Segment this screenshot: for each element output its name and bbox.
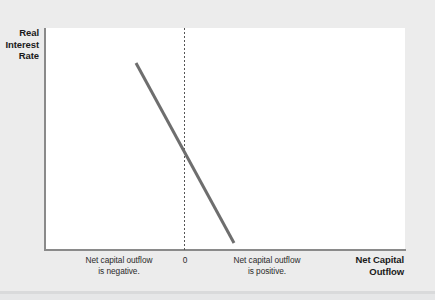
- x-axis-line: [44, 249, 406, 251]
- negative-region-label: Net capital outflow is negative.: [56, 255, 182, 276]
- positive-region-label-line2: is positive.: [204, 266, 330, 277]
- y-axis-title: Real Interest Rate: [0, 27, 39, 62]
- y-axis-line: [44, 28, 46, 251]
- negative-region-label-line2: is negative.: [56, 266, 182, 277]
- x-axis-title-line1: Net Capital: [320, 254, 404, 266]
- y-axis-title-line2: Interest: [0, 39, 39, 51]
- y-axis-title-line1: Real: [0, 27, 39, 39]
- y-axis-title-line3: Rate: [0, 50, 39, 62]
- net-capital-outflow-figure: Real Interest Rate Net Capital Outflow N…: [0, 0, 435, 300]
- x-axis-title-line2: Outflow: [320, 266, 404, 278]
- positive-region-label: Net capital outflow is positive.: [204, 255, 330, 276]
- positive-region-label-line1: Net capital outflow: [204, 255, 330, 266]
- plot-panel: [44, 28, 405, 250]
- negative-region-label-line1: Net capital outflow: [56, 255, 182, 266]
- zero-tick-label: 0: [175, 255, 195, 266]
- x-axis-title: Net Capital Outflow: [320, 254, 404, 277]
- zero-reference-line: [184, 28, 185, 250]
- page-bottom-strip: [0, 294, 435, 300]
